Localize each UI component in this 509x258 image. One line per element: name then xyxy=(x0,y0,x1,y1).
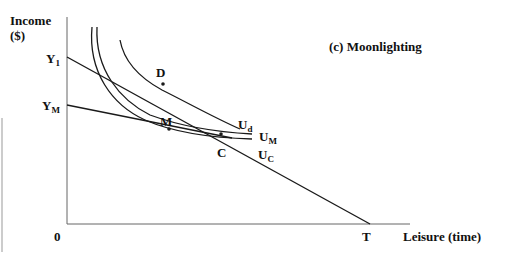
y-axis-label-line2: ($) xyxy=(10,29,51,42)
x-axis-label: Leisure (time) xyxy=(403,230,481,243)
indifference-curve-ud xyxy=(120,40,240,129)
point-d-marker xyxy=(161,82,165,86)
point-d-label: D xyxy=(156,66,165,79)
um-main: U xyxy=(259,129,268,144)
y-axis-label: Income ($) xyxy=(10,14,51,42)
point-m-label: M xyxy=(160,115,172,128)
y-axis-label-line1: Income xyxy=(10,14,51,27)
ud-sub: d xyxy=(247,124,252,134)
intercept-y1-label: Y1 xyxy=(46,52,60,65)
ud-main: U xyxy=(238,117,247,132)
curve-ud-label: Ud xyxy=(238,118,252,131)
ym-main: Y xyxy=(42,98,51,113)
uc-sub: C xyxy=(267,154,274,164)
um-sub: M xyxy=(268,136,277,146)
point-c-marker xyxy=(219,132,223,136)
origin-label: 0 xyxy=(54,230,61,243)
diagram-title: (c) Moonlighting xyxy=(329,40,422,53)
moonlighting-diagram xyxy=(0,0,509,258)
y1-sub: 1 xyxy=(55,58,60,68)
intercept-t-label: T xyxy=(362,230,371,243)
point-c-label: C xyxy=(217,146,226,159)
uc-main: U xyxy=(258,147,267,162)
ym-sub: M xyxy=(51,105,60,115)
curve-uc-label: UC xyxy=(258,148,274,161)
intercept-ym-label: YM xyxy=(42,99,60,112)
y1-main: Y xyxy=(46,51,55,66)
curve-um-label: UM xyxy=(259,130,277,143)
